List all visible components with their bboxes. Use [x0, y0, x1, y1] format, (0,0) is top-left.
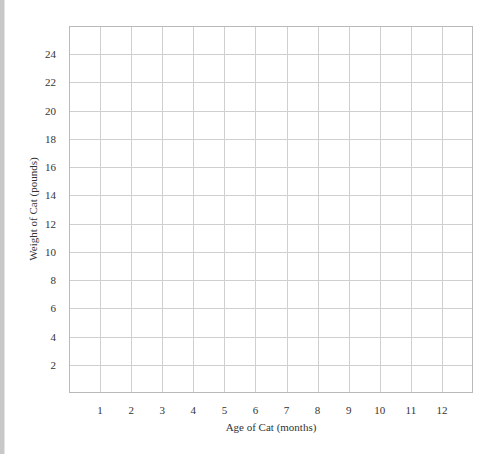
x-tick-label: 3 — [147, 404, 177, 416]
plot-area-frame — [69, 26, 473, 393]
y-axis-label: Weight of Cat (pounds) — [27, 157, 39, 260]
y-tick-label: 8 — [16, 274, 56, 286]
x-tick-label: 10 — [365, 404, 395, 416]
y-tick-label: 22 — [16, 76, 56, 88]
x-tick-label: 8 — [303, 404, 333, 416]
x-tick-label: 12 — [427, 404, 457, 416]
x-tick-label: 11 — [396, 404, 426, 416]
x-tick-label: 7 — [272, 404, 302, 416]
x-tick-label: 6 — [240, 404, 270, 416]
y-tick-label: 18 — [16, 133, 56, 145]
y-tick-label: 24 — [16, 48, 56, 60]
x-tick-label: 4 — [178, 404, 208, 416]
left-border-strip — [0, 0, 5, 454]
x-tick-label: 9 — [334, 404, 364, 416]
y-tick-label: 20 — [16, 105, 56, 117]
x-tick-label: 2 — [116, 404, 146, 416]
x-axis-label: Age of Cat (months) — [226, 421, 317, 433]
x-tick-label: 5 — [209, 404, 239, 416]
x-tick-label: 1 — [85, 404, 115, 416]
y-tick-label: 4 — [16, 331, 56, 343]
y-tick-label: 6 — [16, 302, 56, 314]
y-tick-label: 2 — [16, 359, 56, 371]
